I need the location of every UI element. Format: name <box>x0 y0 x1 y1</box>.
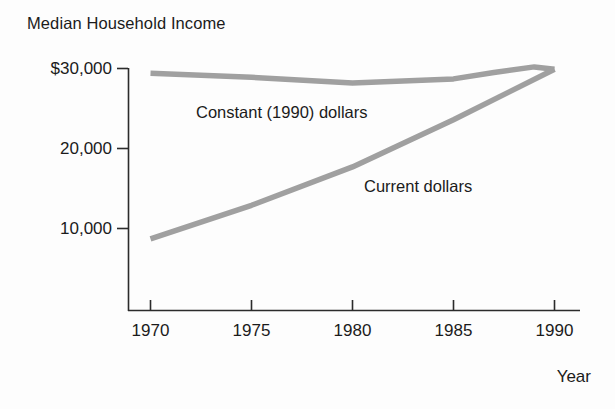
series-annotation-current-dollars: Current dollars <box>364 178 472 195</box>
y-axis-label-30000: $30,000 <box>0 60 112 77</box>
x-axis-label-1970: 1970 <box>110 322 191 339</box>
series-line-constant-1990-dollars <box>151 67 555 83</box>
chart-container: Median Household Income $30,000 20,000 1… <box>0 0 615 409</box>
series-annotation-constant-dollars: Constant (1990) dollars <box>196 104 368 121</box>
x-axis-title: Year <box>557 368 591 385</box>
x-axis-label-1980: 1980 <box>312 322 393 339</box>
series-lines <box>151 67 555 239</box>
series-line-current-dollars <box>151 69 555 239</box>
y-axis-label-10000: 10,000 <box>0 220 112 237</box>
x-axis-label-1985: 1985 <box>413 322 494 339</box>
x-axis-label-1975: 1975 <box>211 322 292 339</box>
y-axis-label-20000: 20,000 <box>0 140 112 157</box>
x-axis-label-1990: 1990 <box>514 322 595 339</box>
